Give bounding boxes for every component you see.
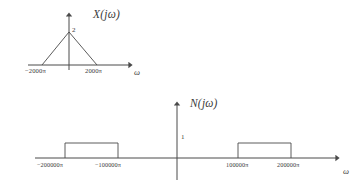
plot-bottom-band-left <box>65 143 118 158</box>
plot-top-tick-label-left: −2000π <box>25 68 46 75</box>
plot-bottom-title: N(jω) <box>190 98 218 110</box>
plot-bottom-band-right <box>238 143 291 158</box>
plot-bottom-tick-label-minus-100000pi: −100000π <box>95 162 121 168</box>
signal-spectra-figure: X(jω) 2 −2000π 2000π ω N(jω) 1 −200000π … <box>0 0 363 183</box>
plot-bottom-tick-label-200000pi: 200000π <box>277 162 299 168</box>
plot-top-peak-label: 2 <box>72 27 76 34</box>
plot-bottom-tick-label-minus-200000pi: −200000π <box>37 162 63 168</box>
plot-top-group <box>28 15 130 70</box>
plot-bottom-amplitude-label: 1 <box>181 134 185 141</box>
plot-top-tick-label-right: 2000π <box>85 68 102 75</box>
plot-bottom-tick-label-100000pi: 100000π <box>226 162 248 168</box>
plot-top-axis-label-omega: ω <box>134 68 140 77</box>
figure-vector-canvas <box>0 0 363 183</box>
plot-top-title: X(jω) <box>93 9 120 21</box>
plot-bottom-axis-label-omega: ω <box>343 167 349 176</box>
plot-bottom-group <box>35 104 337 180</box>
